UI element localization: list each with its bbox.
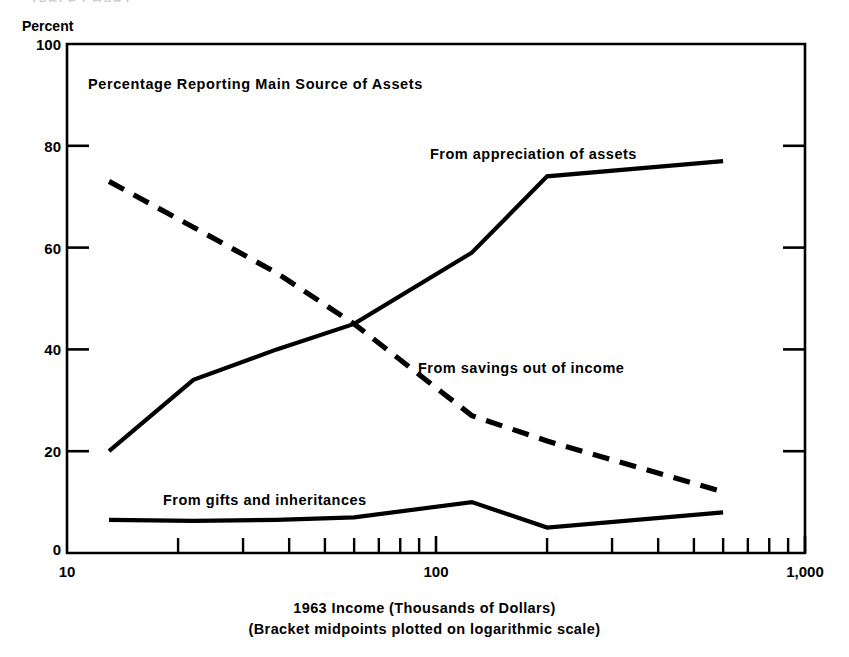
y-tick-label-80: 80	[44, 137, 61, 154]
y-tick-label-20: 20	[44, 443, 61, 460]
y-tick-label-40: 40	[44, 341, 61, 358]
x-axis-caption-line-2: (Bracket midpoints plotted on logarithmi…	[0, 621, 849, 637]
plot-canvas	[0, 0, 849, 657]
cropped-header-fragment: TABLE CHART	[30, 0, 132, 2]
plot-title: Percentage Reporting Main Source of Asse…	[88, 76, 423, 92]
y-axis-unit-label: Percent	[22, 18, 73, 34]
series-label-savings: From savings out of income	[418, 360, 624, 376]
series-line-1	[109, 181, 723, 492]
x-tick-label-100: 100	[423, 563, 448, 580]
series-label-appreciation: From appreciation of assets	[430, 146, 637, 162]
chart-figure: TABLE CHART Percent Percentage Reporting…	[0, 0, 849, 657]
y-tick-label-100: 100	[36, 36, 61, 53]
axes-frame	[67, 44, 805, 553]
y-tick-label-0: 0	[53, 541, 61, 558]
x-axis-caption-line-1: 1963 Income (Thousands of Dollars)	[0, 600, 849, 616]
series-label-gifts: From gifts and inheritances	[163, 492, 367, 508]
data-series	[109, 161, 723, 527]
x-tick-label-1000: 1,000	[786, 563, 824, 580]
series-line-0	[109, 161, 723, 451]
x-tick-label-10: 10	[59, 563, 76, 580]
y-tick-label-60: 60	[44, 239, 61, 256]
